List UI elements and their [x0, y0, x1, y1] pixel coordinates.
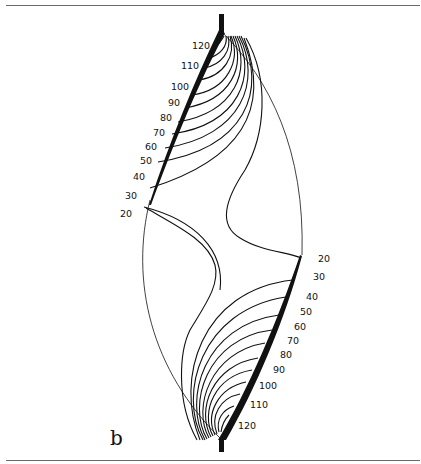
label-right-40: 40 [306, 291, 318, 302]
label-right-110: 110 [250, 399, 268, 410]
bottom-contours [146, 208, 293, 440]
label-right-70: 70 [287, 335, 299, 346]
top-contours [144, 36, 301, 290]
label-left-100: 100 [171, 81, 189, 92]
label-right-60: 60 [294, 321, 306, 332]
label-right-90: 90 [273, 364, 285, 375]
label-left-110: 110 [181, 60, 199, 71]
panel-label: b [110, 426, 123, 450]
label-right-120: 120 [238, 420, 256, 431]
label-right-50: 50 [300, 306, 312, 317]
right-labels: 20 30 40 50 60 70 80 90 100 110 120 [238, 253, 330, 431]
label-left-90: 90 [168, 97, 180, 108]
right-thick-boundary [218, 255, 302, 440]
label-right-100: 100 [259, 380, 277, 391]
label-left-30: 30 [125, 190, 137, 201]
label-left-40: 40 [133, 171, 145, 182]
label-left-120: 120 [192, 40, 210, 51]
contour-diagram: 120 110 100 90 80 70 60 50 40 30 20 20 3… [0, 0, 421, 464]
label-left-50: 50 [140, 155, 152, 166]
bottom-stem [219, 438, 224, 452]
label-right-30: 30 [313, 271, 325, 282]
label-left-70: 70 [153, 127, 165, 138]
label-right-20: 20 [318, 253, 330, 264]
right-outer-arc [222, 32, 302, 255]
left-labels: 120 110 100 90 80 70 60 50 40 30 20 [120, 40, 210, 219]
label-left-80: 80 [160, 112, 172, 123]
top-stem [219, 14, 224, 33]
label-right-80: 80 [280, 349, 292, 360]
label-left-20: 20 [120, 208, 132, 219]
label-left-60: 60 [145, 141, 157, 152]
